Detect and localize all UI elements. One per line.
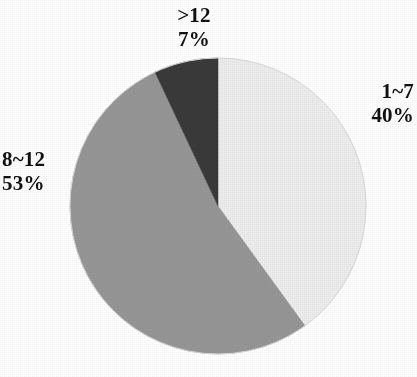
pie-label-8-12-category: 8~12	[2, 148, 86, 172]
pie-slices	[70, 58, 366, 354]
pie-label-1-7-percent: 40%	[334, 104, 414, 128]
pie-chart-figure: >12 7% 1~7 40% 8~12 53%	[0, 0, 417, 377]
pie-label-gt-12: >12 7%	[142, 4, 246, 51]
pie-label-1-7-category: 1~7	[334, 80, 414, 104]
pie-label-1-7: 1~7 40%	[334, 80, 414, 127]
pie-label-gt-12-category: >12	[142, 4, 246, 28]
pie-label-8-12: 8~12 53%	[2, 148, 86, 195]
pie-label-gt-12-percent: 7%	[142, 28, 246, 52]
pie-label-8-12-percent: 53%	[2, 172, 86, 196]
